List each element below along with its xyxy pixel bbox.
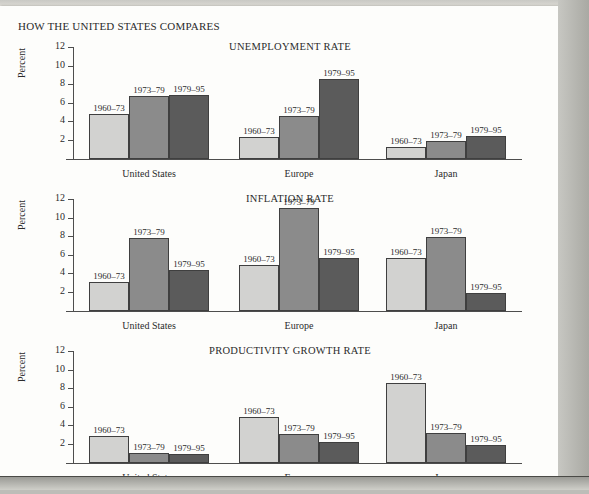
bar-series-label: 1973–79 [283,197,315,207]
bar: 1960–73 [89,282,129,311]
bar-series-label: 1973–79 [133,227,165,237]
bar-series-label: 1960–73 [93,103,125,113]
chart-1: UNEMPLOYMENT RATEPercent246810121960–731… [0,38,540,190]
y-tick-label: 8 [60,229,65,240]
bar-series-label: 1979–95 [173,84,205,94]
y-tick-label: 2 [60,437,65,448]
plot-area: 246810121960–731973–791979–95United Stat… [74,200,522,311]
bar-series-label: 1960–73 [93,271,125,281]
group-label: United States [122,320,176,331]
page-sheet: HOW THE UNITED STATES COMPARES UNEMPLOYM… [0,6,558,476]
bar: 1979–95 [466,136,506,159]
y-tick: 10 [68,66,74,67]
bar: 1973–79 [279,116,319,159]
y-tick: 10 [68,218,74,219]
y-tick-label: 10 [55,363,65,374]
bar-series-label: 1979–95 [323,431,355,441]
y-tick-label: 10 [55,211,65,222]
y-tick-label: 6 [60,400,65,411]
y-tick: 4 [68,425,74,426]
group-label: Europe [285,168,314,179]
bar: 1979–95 [319,442,359,463]
bar: 1960–73 [89,114,129,159]
bar: 1979–95 [169,270,209,311]
y-tick-label: 10 [55,59,65,70]
y-axis-label: Percent [16,48,27,78]
bar-series-label: 1979–95 [470,282,502,292]
y-tick: 4 [68,273,74,274]
bar: 1973–79 [129,238,169,311]
bar: 1973–79 [279,434,319,463]
y-axis-label: Percent [16,200,27,230]
bar: 1973–79 [129,96,169,159]
bar: 1960–73 [239,417,279,463]
bar: 1960–73 [386,258,426,311]
bar-series-label: 1973–79 [430,226,462,236]
group-label: United States [122,168,176,179]
bar: 1979–95 [319,79,359,159]
y-tick-label: 6 [60,96,65,107]
chart-2: INFLATION RATEPercent246810121960–731973… [0,190,540,342]
bar-series-label: 1960–73 [390,372,422,382]
y-tick: 12 [68,199,74,200]
y-tick-label: 4 [60,418,65,429]
bar: 1960–73 [89,436,129,463]
bar: 1973–79 [426,433,466,463]
bar-series-label: 1960–73 [243,254,275,264]
y-tick: 6 [68,255,74,256]
group-label: Japan [435,320,458,331]
bar: 1979–95 [466,293,506,312]
bar-series-label: 1979–95 [323,247,355,257]
bar: 1973–79 [426,141,466,159]
y-tick-label: 2 [60,133,65,144]
bar-series-label: 1979–95 [470,434,502,444]
bar: 1973–79 [426,237,466,311]
y-tick: 12 [68,47,74,48]
bar: 1979–95 [169,95,209,159]
x-axis-line [66,311,522,312]
plot-area: 246810121960–731973–791979–95United Stat… [74,352,522,463]
bar-series-label: 1960–73 [390,136,422,146]
bar-series-label: 1973–79 [430,130,462,140]
y-tick: 12 [68,351,74,352]
bar-series-label: 1973–79 [133,442,165,452]
bar-series-label: 1973–79 [133,85,165,95]
y-tick-label: 6 [60,248,65,259]
group-label: Japan [435,168,458,179]
y-tick: 2 [68,444,74,445]
bar: 1979–95 [466,445,506,463]
bar-series-label: 1979–95 [173,443,205,453]
y-tick: 10 [68,370,74,371]
group-label: Europe [285,320,314,331]
bar: 1960–73 [386,383,426,463]
y-tick-label: 4 [60,266,65,277]
bar: 1960–73 [239,265,279,311]
y-tick-label: 12 [55,192,65,203]
bar: 1960–73 [386,147,426,159]
page-right-edge [558,0,589,489]
y-tick: 8 [68,388,74,389]
y-tick: 8 [68,236,74,237]
y-tick: 2 [68,140,74,141]
bar-series-label: 1973–79 [283,105,315,115]
plot-area: 246810121960–731973–791979–95United Stat… [74,48,522,159]
bar-series-label: 1960–73 [93,425,125,435]
y-tick-label: 12 [55,344,65,355]
y-tick-label: 8 [60,77,65,88]
bar: 1973–79 [279,208,319,311]
y-tick: 8 [68,84,74,85]
chart-3: PRODUCTIVITY GROWTH RATEPercent246810121… [0,342,540,494]
y-tick-label: 8 [60,381,65,392]
charts-container: UNEMPLOYMENT RATEPercent246810121960–731… [0,38,558,494]
y-tick: 2 [68,292,74,293]
bar-series-label: 1979–95 [173,259,205,269]
y-tick-label: 2 [60,285,65,296]
bar-series-label: 1979–95 [323,68,355,78]
page-bottom-edge [0,476,589,490]
y-tick: 4 [68,121,74,122]
figure-heading: HOW THE UNITED STATES COMPARES [18,20,220,32]
bar: 1979–95 [169,454,209,463]
y-axis-label: Percent [16,352,27,382]
bar-series-label: 1973–79 [283,423,315,433]
